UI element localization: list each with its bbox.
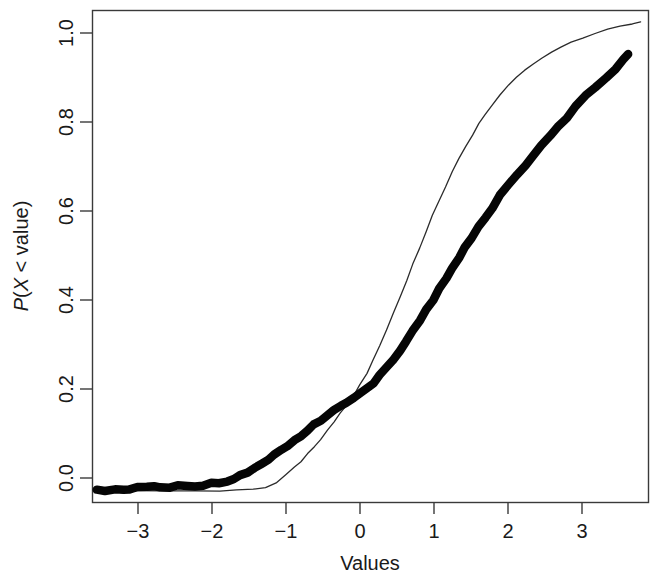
- x-tick-label: 0: [354, 520, 365, 542]
- y-tick-label: 1.0: [55, 19, 77, 47]
- y-tick-label: 0.6: [55, 197, 77, 225]
- y-axis-title: P(X < value): [10, 201, 32, 312]
- x-axis-title: Values: [340, 552, 400, 574]
- y-axis-title-x: X: [10, 277, 32, 292]
- y-tick-label: 0.8: [55, 108, 77, 136]
- chart-page: −3 −2 −1 0 1 2 3 0.0 0.2 0.4 0.6 0.8 1.0…: [0, 0, 665, 578]
- y-axis-title-value: value: [10, 207, 32, 255]
- x-tick-label: −1: [275, 520, 298, 542]
- svg-text:P(X < value): P(X < value): [10, 201, 32, 312]
- x-tick-label: −2: [201, 520, 224, 542]
- y-tick-label: 0.4: [55, 286, 77, 314]
- y-tick-label: 0.2: [55, 375, 77, 403]
- x-tick-label: 2: [502, 520, 513, 542]
- x-tick-label: −3: [127, 520, 150, 542]
- y-axis-title-op: <: [10, 255, 32, 278]
- x-tick-label: 1: [428, 520, 439, 542]
- y-tick-label: 0.0: [55, 464, 77, 492]
- y-axis-title-close: ): [10, 201, 32, 208]
- x-tick-label: 3: [576, 520, 587, 542]
- ecdf-comparison-chart: −3 −2 −1 0 1 2 3 0.0 0.2 0.4 0.6 0.8 1.0…: [0, 0, 665, 578]
- y-axis-title-p: P: [10, 297, 32, 311]
